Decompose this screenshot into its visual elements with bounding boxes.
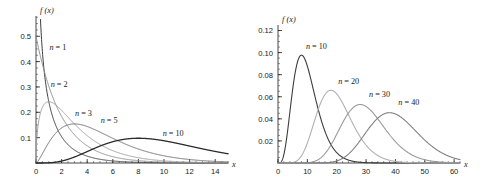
curve-label-5: n = 5 bbox=[101, 116, 118, 125]
curve-label-40: n = 40 bbox=[398, 98, 419, 107]
curve-label-2: n = 2 bbox=[51, 80, 68, 89]
curve-label-20: n = 20 bbox=[338, 77, 359, 86]
x-tick-label: 2 bbox=[59, 167, 63, 176]
y-tick-label: 0.10 bbox=[258, 49, 273, 58]
y-tick-label: 0.2 bbox=[20, 108, 31, 117]
y-tick-label: 0.02 bbox=[258, 137, 273, 146]
chart-right-svg: 01020304050600.020.040.060.080.100.12xf … bbox=[245, 0, 489, 179]
y-tick-label: 0.3 bbox=[20, 83, 31, 92]
x-tick-label: 0 bbox=[34, 167, 38, 176]
curve-label-30: n = 30 bbox=[369, 90, 390, 99]
x-tick-label: 60 bbox=[450, 167, 458, 176]
x-tick-label: 8 bbox=[136, 167, 140, 176]
y-tick-label: 0.4 bbox=[20, 58, 31, 67]
x-tick-label: 20 bbox=[332, 167, 340, 176]
curve-40 bbox=[278, 113, 460, 163]
x-tick-label: 10 bbox=[303, 167, 311, 176]
curve-label-1: n = 1 bbox=[49, 43, 66, 52]
curve-1 bbox=[40, 20, 228, 163]
x-axis-title: x bbox=[463, 160, 468, 169]
x-tick-label: 6 bbox=[111, 167, 115, 176]
x-tick-label: 40 bbox=[391, 167, 399, 176]
x-axis-title: x bbox=[231, 160, 236, 169]
curve-label-10: n = 10 bbox=[306, 42, 327, 51]
curve-3 bbox=[36, 102, 228, 163]
x-tick-label: 50 bbox=[421, 167, 429, 176]
x-tick-label: 30 bbox=[362, 167, 370, 176]
chart-panel-right: 01020304050600.020.040.060.080.100.12xf … bbox=[245, 0, 489, 179]
y-axis-title: f (x) bbox=[282, 15, 296, 24]
curve-10 bbox=[36, 138, 228, 163]
y-tick-label: 0.5 bbox=[20, 32, 31, 41]
x-tick-label: 12 bbox=[185, 167, 193, 176]
curve-2 bbox=[36, 36, 228, 163]
curve-label-3: n = 3 bbox=[75, 109, 92, 118]
y-axis-title: f (x) bbox=[40, 6, 54, 15]
chart-panel-left: 024681012140.10.20.30.40.5xf (x)n = 1n =… bbox=[0, 0, 245, 179]
figure-chi-square-densities: 024681012140.10.20.30.40.5xf (x)n = 1n =… bbox=[0, 0, 489, 179]
curve-20 bbox=[278, 90, 460, 163]
y-tick-label: 0.06 bbox=[258, 93, 273, 102]
curve-30 bbox=[278, 104, 460, 163]
chart-left-svg: 024681012140.10.20.30.40.5xf (x)n = 1n =… bbox=[0, 0, 245, 179]
y-tick-label: 0.1 bbox=[20, 134, 31, 143]
curve-label-10: n = 10 bbox=[163, 129, 184, 138]
x-tick-label: 4 bbox=[85, 167, 89, 176]
y-tick-label: 0.08 bbox=[258, 71, 273, 80]
x-tick-label: 0 bbox=[276, 167, 280, 176]
curve-5 bbox=[36, 124, 228, 163]
y-tick-label: 0.04 bbox=[258, 115, 273, 124]
y-tick-label: 0.12 bbox=[258, 26, 273, 35]
x-tick-label: 14 bbox=[211, 167, 219, 176]
x-tick-label: 10 bbox=[160, 167, 168, 176]
